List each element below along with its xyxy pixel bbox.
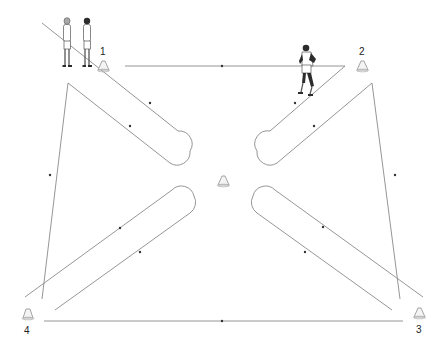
direction-dot — [149, 102, 151, 104]
cone-label: 4 — [24, 325, 30, 336]
direction-dot — [139, 251, 141, 253]
player-waiting-1 — [63, 18, 73, 67]
direction-dot — [322, 226, 324, 228]
player-running — [298, 45, 316, 96]
direction-dot — [49, 174, 51, 176]
cone-2: 2 — [357, 46, 369, 72]
loop-bottom-right — [251, 186, 423, 310]
direction-dot — [304, 251, 306, 253]
direction-dot — [294, 102, 296, 104]
direction-dot — [119, 227, 121, 229]
cone-4: 4 — [22, 309, 34, 336]
player-waiting-2 — [83, 18, 93, 67]
direction-dot — [313, 125, 315, 127]
cone-center — [218, 176, 230, 187]
direction-dot — [221, 320, 223, 322]
drill-diagram: 1 2 3 4 — [0, 0, 448, 356]
loop-bottom-left — [25, 186, 196, 310]
direction-dot — [394, 174, 396, 176]
direction-dot — [221, 65, 223, 67]
cone-label: 1 — [100, 46, 106, 57]
cone-label: 3 — [416, 324, 422, 335]
cone-label: 2 — [359, 46, 365, 57]
path-bottom-line — [44, 320, 403, 322]
cone-1: 1 — [98, 46, 110, 72]
cone-3: 3 — [414, 308, 426, 335]
direction-dot — [129, 125, 131, 127]
